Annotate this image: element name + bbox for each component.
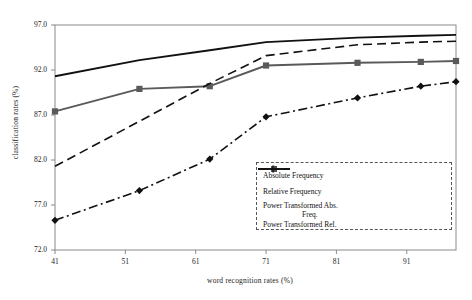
series-3 [55, 41, 456, 166]
data-point-marker [354, 60, 360, 66]
legend-box: Absolute Frequency Relative Frequency Po… [256, 162, 452, 230]
data-point-marker [136, 187, 143, 194]
data-point-marker [51, 217, 58, 224]
legend-label: Relative Frequency [263, 187, 322, 196]
data-point-marker [262, 113, 269, 120]
data-point-marker [452, 78, 459, 85]
data-point-marker [453, 58, 459, 64]
legend-item-power-transformed-rel: Power Transformed Rel. [263, 219, 445, 230]
chart-container: classification rates (%) word recognitio… [0, 0, 472, 300]
solid-line-icon [257, 163, 291, 175]
legend-item-relative-frequency: Relative Frequency [263, 184, 445, 199]
data-point-marker [354, 94, 361, 101]
data-point-marker [417, 83, 424, 90]
legend-label: Power Transformed Rel. [263, 220, 337, 229]
data-point-marker [136, 86, 142, 92]
data-point-marker [52, 108, 58, 114]
series-2 [52, 58, 459, 115]
legend-label: Power Transformed Abs. [263, 201, 338, 210]
legend-item-power-transformed-abs: Power Transformed Abs. [263, 200, 445, 211]
data-point-marker [418, 59, 424, 65]
legend-label-continuation: Freq. [302, 211, 445, 219]
data-point-marker [263, 62, 269, 68]
plot-svg [0, 0, 472, 300]
